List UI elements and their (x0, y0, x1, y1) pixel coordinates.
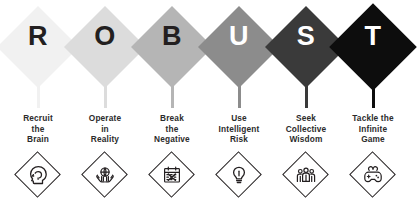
label-line-3: Brain (0, 134, 76, 145)
description-column-operate-in-reality: Operate in Reality (67, 110, 143, 198)
label-line-2: Collective (268, 124, 344, 135)
description-column-use-intelligent-risk: Use Intelligent Risk (201, 110, 277, 198)
label-line-1: Use (201, 113, 277, 124)
group-of-people-icon (283, 152, 329, 198)
label-operate-in-reality: Operate in Reality (67, 110, 143, 147)
label-line-1: Tackle the (335, 113, 411, 124)
label-line-1: Operate (67, 113, 143, 124)
hands-holding-globe-icon (82, 152, 128, 198)
label-break-the-negative: Break the Negative (134, 110, 210, 147)
description-column-recruit-the-brain: Recruit the Brain (0, 110, 76, 198)
label-line-3: Wisdom (268, 134, 344, 145)
pillar-o: O (67, 0, 143, 108)
label-line-2: Intelligent (201, 124, 277, 135)
label-line-2: the (134, 124, 210, 135)
label-line-1: Break (134, 113, 210, 124)
pillar-r: R (0, 0, 76, 108)
label-tackle-the-infinite-game: Tackle the Infinite Game (335, 110, 411, 147)
description-column-break-the-negative: Break the Negative (134, 110, 210, 198)
pillar-u: U (201, 0, 277, 108)
label-line-3: Negative (134, 134, 210, 145)
pillar-s: S (268, 0, 344, 108)
icon-frame-recruit-the-brain (15, 152, 61, 198)
pillar-t: T (335, 0, 411, 108)
pillar-b: B (134, 0, 210, 108)
calendar-cross-icon (149, 152, 195, 198)
label-line-1: Recruit (0, 113, 76, 124)
label-recruit-the-brain: Recruit the Brain (0, 110, 76, 147)
label-line-2: the (0, 124, 76, 135)
icon-frame-tackle-the-infinite-game (350, 152, 396, 198)
label-line-2: Infinite (335, 124, 411, 135)
pillar-letter-s: S (268, 0, 344, 72)
icon-frame-operate-in-reality (82, 152, 128, 198)
lightbulb-icon (216, 152, 262, 198)
game-controller-icon (350, 152, 396, 198)
pillar-letter-u: U (201, 0, 277, 72)
description-column-seek-collective-wisdom: Seek Collective Wisdom (268, 110, 344, 198)
pillar-letter-o: O (67, 0, 143, 72)
pillar-letter-b: B (134, 0, 210, 72)
label-use-intelligent-risk: Use Intelligent Risk (201, 110, 277, 147)
label-line-2: in (67, 124, 143, 135)
pillar-letter-r: R (0, 0, 76, 72)
icon-frame-break-the-negative (149, 152, 195, 198)
diamond-band: R O B U S T (0, 0, 413, 108)
label-line-3: Game (335, 134, 411, 145)
head-profile-icon (15, 152, 61, 198)
icon-frame-use-intelligent-risk (216, 152, 262, 198)
label-line-3: Reality (67, 134, 143, 145)
icon-frame-seek-collective-wisdom (283, 152, 329, 198)
label-line-1: Seek (268, 113, 344, 124)
label-line-3: Risk (201, 134, 277, 145)
pillar-letter-t: T (335, 0, 411, 72)
label-seek-collective-wisdom: Seek Collective Wisdom (268, 110, 344, 147)
description-column-tackle-the-infinite-game: Tackle the Infinite Game (335, 110, 411, 198)
pillar-descriptions: Recruit the Brain Operate (0, 110, 413, 217)
